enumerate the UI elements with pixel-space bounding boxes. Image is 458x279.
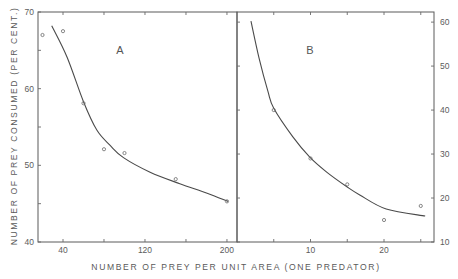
panel-frame bbox=[237, 12, 434, 242]
data-point bbox=[174, 178, 177, 181]
data-point bbox=[382, 218, 385, 221]
y-axis-title: NUMBER OF PREY CONSUMED (PER CENT.) bbox=[9, 7, 19, 246]
x-tick-label: 120 bbox=[138, 245, 152, 255]
panel-b: 1020102030405060B bbox=[237, 12, 450, 255]
x-tick-label: 20 bbox=[379, 245, 389, 255]
x-axis-title: NUMBER OF PREY PER UNIT AREA (ONE PREDAT… bbox=[91, 262, 380, 272]
fitted-curve bbox=[52, 26, 228, 202]
panel-a: 4012020040506070A bbox=[25, 7, 237, 255]
x-tick-label: 200 bbox=[220, 245, 234, 255]
data-point bbox=[61, 30, 64, 33]
y-tick-label: 40 bbox=[25, 237, 35, 247]
y-tick-label: 10 bbox=[440, 237, 450, 247]
x-tick-label: 40 bbox=[58, 245, 68, 255]
y-tick-label: 30 bbox=[440, 149, 450, 159]
y-tick-label: 60 bbox=[25, 84, 35, 94]
y-tick-label: 40 bbox=[440, 105, 450, 115]
panel-label: A bbox=[116, 44, 124, 56]
fitted-curve bbox=[251, 21, 425, 216]
data-point bbox=[41, 33, 44, 36]
data-point bbox=[123, 151, 126, 154]
chart-panels: 4012020040506070A1020102030405060B bbox=[25, 7, 450, 255]
x-tick-label: 10 bbox=[306, 245, 316, 255]
predation-chart: 4012020040506070A1020102030405060B NUMBE… bbox=[0, 0, 458, 279]
panel-frame bbox=[38, 12, 237, 242]
y-tick-label: 70 bbox=[25, 7, 35, 17]
panel-label: B bbox=[306, 44, 313, 56]
y-tick-label: 20 bbox=[440, 193, 450, 203]
data-point bbox=[419, 204, 422, 207]
y-tick-label: 50 bbox=[440, 61, 450, 71]
data-point bbox=[346, 183, 349, 186]
data-point bbox=[102, 148, 105, 151]
y-tick-label: 60 bbox=[440, 17, 450, 27]
y-tick-label: 50 bbox=[25, 160, 35, 170]
